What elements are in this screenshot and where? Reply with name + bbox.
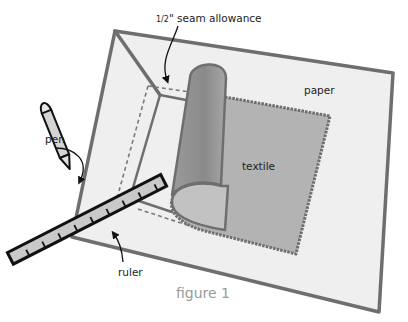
textile-label: textile (242, 160, 275, 172)
seam-allowance-diagram: 1/2" seam allowance paper textile pen ru… (0, 0, 408, 322)
figure-caption: figure 1 (176, 285, 230, 301)
pen-label: pen (45, 133, 65, 145)
ruler-label: ruler (118, 266, 143, 278)
paper-label: paper (304, 84, 335, 96)
seam-allowance-label: 1/2" seam allowance (156, 12, 262, 24)
